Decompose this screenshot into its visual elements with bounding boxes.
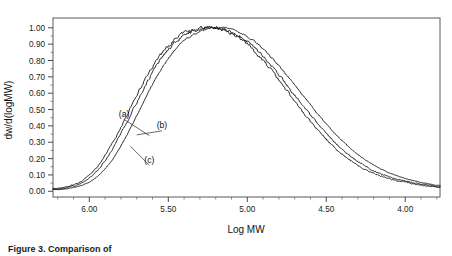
y-tick-label: 0.80 xyxy=(29,57,45,66)
x-tick-label: 4.00 xyxy=(397,205,413,214)
y-tick-label: 0.20 xyxy=(29,155,45,164)
series-label-c: (c) xyxy=(144,155,154,165)
curve-a xyxy=(53,26,440,189)
data-curves xyxy=(53,26,440,190)
figure-container: 6.005.505.004.504.00 0.000.100.200.300.4… xyxy=(0,0,452,256)
y-tick-label: 0.00 xyxy=(29,187,45,196)
x-tick-label: 5.00 xyxy=(239,205,255,214)
series-label-a: (a) xyxy=(119,109,130,119)
figure-caption: Figure 3. Comparison of xyxy=(8,243,448,256)
x-axis-ticks xyxy=(58,197,437,202)
y-tick-label: 0.40 xyxy=(29,122,45,131)
plot-frame xyxy=(53,18,440,197)
y-tick-label: 1.00 xyxy=(29,24,45,33)
x-tick-label: 4.50 xyxy=(318,205,334,214)
y-tick-label: 0.30 xyxy=(29,138,45,147)
x-tick-label: 6.00 xyxy=(81,205,97,214)
y-tick-label: 0.70 xyxy=(29,73,45,82)
y-tick-label: 0.60 xyxy=(29,89,45,98)
y-axis-ticks xyxy=(48,28,53,191)
x-axis-title: Log MW xyxy=(227,224,265,235)
annotation-leader-line xyxy=(137,131,162,135)
y-tick-label: 0.50 xyxy=(29,106,45,115)
curve-b xyxy=(53,26,440,189)
molecular-weight-distribution-chart: 6.005.505.004.504.00 0.000.100.200.300.4… xyxy=(0,0,452,256)
series-label-b: (b) xyxy=(157,120,168,130)
x-axis-tick-labels: 6.005.505.004.504.00 xyxy=(81,205,413,214)
y-axis-title: dw/d(logMW) xyxy=(3,81,14,140)
y-tick-label: 0.90 xyxy=(29,40,45,49)
y-tick-label: 0.10 xyxy=(29,171,45,180)
x-tick-label: 5.50 xyxy=(160,205,176,214)
y-axis-tick-labels: 0.000.100.200.300.400.500.600.700.800.90… xyxy=(29,24,45,196)
curve-c xyxy=(53,27,440,189)
